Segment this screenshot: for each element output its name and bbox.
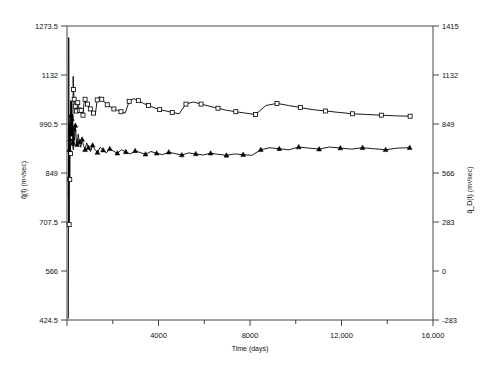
y-tick-label-left: 1273.5 <box>35 22 58 31</box>
data-point-marker <box>234 110 238 114</box>
y-tick-label-left: 424.5 <box>39 316 58 325</box>
y-tick-label-left: 990.5 <box>39 120 58 129</box>
data-point-marker <box>105 103 109 107</box>
y-tick-label-left: 707.5 <box>39 218 58 227</box>
data-point-marker <box>127 99 131 103</box>
y-tick-label-right: 0 <box>442 267 446 276</box>
data-point-marker <box>350 112 354 116</box>
data-point-marker <box>67 223 71 227</box>
y-tick-label-left: 849 <box>45 169 58 178</box>
y-tick-label-right: 566 <box>442 169 455 178</box>
data-point-marker <box>119 110 123 114</box>
x-tick-label: 12,000 <box>330 331 353 340</box>
data-point-marker <box>95 98 99 102</box>
data-point-marker <box>199 102 203 106</box>
data-point-marker <box>170 110 174 114</box>
y-tick-label-right: 1415 <box>442 22 459 31</box>
data-point-marker <box>92 111 96 115</box>
data-point-marker <box>158 108 162 112</box>
data-point-marker <box>100 97 104 101</box>
data-point-marker <box>81 113 85 117</box>
y-tick-label-right: 283 <box>442 218 455 227</box>
x-tick-label: 8000 <box>242 331 259 340</box>
data-point-marker <box>184 102 188 106</box>
data-point-marker <box>275 101 279 105</box>
data-point-marker <box>112 107 116 111</box>
data-point-marker <box>88 107 92 111</box>
x-axis-title: Time (days) <box>232 345 269 353</box>
data-point-marker <box>298 106 302 110</box>
x-tick-label: 4000 <box>150 331 167 340</box>
data-point-marker <box>72 88 76 92</box>
data-point-marker <box>146 103 150 107</box>
y-axis-left-title: q̃(t) (m³/sec) <box>20 161 28 200</box>
data-point-marker <box>76 101 80 105</box>
data-point-marker <box>79 108 83 112</box>
data-point-marker <box>253 112 257 116</box>
y-tick-label-left: 566 <box>45 267 58 276</box>
y-tick-label-right: 1132 <box>442 71 458 80</box>
chart-figure: 4000800012,00016,000 424.5566707.5849990… <box>0 0 493 367</box>
figure-background <box>0 0 493 367</box>
y-tick-label-left: 1132 <box>42 71 58 80</box>
data-point-marker <box>379 113 383 117</box>
x-tick-label: 16,000 <box>422 331 445 340</box>
y-tick-label-right: 849 <box>442 120 455 129</box>
y-tick-label-right: -283 <box>442 316 457 325</box>
y-axis-right-title: q̃_D(t) (m³/sec) <box>466 166 474 213</box>
data-point-marker <box>83 97 87 101</box>
data-point-marker <box>216 106 220 110</box>
data-point-marker <box>323 109 327 113</box>
data-point-marker <box>136 99 140 103</box>
data-point-marker <box>408 114 412 118</box>
data-point-marker <box>86 102 90 106</box>
